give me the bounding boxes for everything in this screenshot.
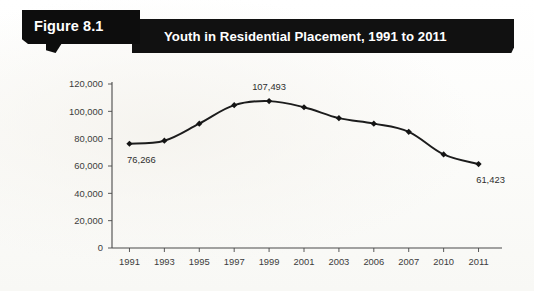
- y-tick-label: 20,000: [74, 215, 103, 226]
- x-tick-label: 2006: [363, 256, 384, 267]
- x-tick-label: 2007: [398, 256, 419, 267]
- x-tick-label: 2003: [328, 256, 349, 267]
- data-point-label: 76,266: [127, 154, 156, 165]
- chart-svg: 020,00040,00060,00080,000100,000120,000 …: [0, 58, 534, 291]
- y-tick-label: 60,000: [74, 160, 103, 171]
- x-tick-label: 1997: [224, 256, 245, 267]
- y-tick-label: 0: [98, 242, 103, 253]
- line-chart: 020,00040,00060,00080,000100,000120,000 …: [0, 58, 534, 291]
- data-point-marker: [371, 121, 377, 127]
- data-point-marker: [231, 102, 237, 108]
- y-tick-label: 40,000: [74, 188, 103, 199]
- x-tick-label: 2010: [433, 256, 454, 267]
- y-tick-label: 80,000: [74, 133, 103, 144]
- data-point-marker: [301, 104, 307, 110]
- data-point-marker: [266, 98, 272, 104]
- y-axis: 020,00040,00060,00080,000100,000120,000: [69, 78, 112, 253]
- data-point-marker: [406, 129, 412, 135]
- data-point-label: 107,493: [252, 81, 286, 92]
- data-point-marker: [475, 161, 481, 167]
- x-tick-label: 1993: [154, 256, 175, 267]
- y-tick-label: 100,000: [69, 106, 103, 117]
- data-point-marker: [126, 141, 132, 147]
- data-point-label: 61,423: [476, 174, 505, 185]
- figure-title: Youth in Residential Placement, 1991 to …: [164, 27, 447, 47]
- x-tick-label: 2001: [294, 256, 315, 267]
- x-tick-label: 1991: [119, 256, 140, 267]
- series-line: [129, 101, 478, 164]
- x-tick-label: 1999: [259, 256, 280, 267]
- x-tick-label: 1995: [189, 256, 210, 267]
- y-tick-label: 120,000: [69, 78, 103, 89]
- banner-notch-decoration: [46, 43, 62, 53]
- x-axis: 1991199319951997199920012003200620072010…: [119, 248, 489, 267]
- series-markers: [126, 98, 481, 167]
- data-point-marker: [161, 138, 167, 144]
- x-tick-label: 2011: [468, 256, 488, 267]
- data-point-marker: [336, 115, 342, 121]
- figure-label: Figure 8.1: [34, 15, 138, 37]
- figure-banner: Figure 8.1 Youth in Residential Placemen…: [22, 10, 514, 54]
